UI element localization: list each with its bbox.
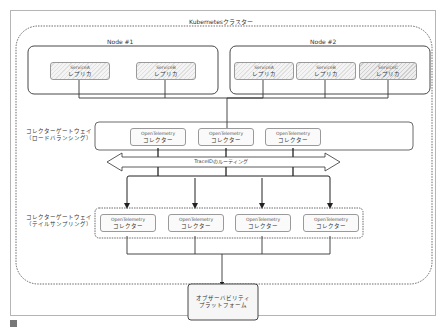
platform-line2: プラットフォーム [199,302,247,309]
service-name: ServiceC [378,64,398,71]
traceid-routing-label: TraceIDのルーティング [0,157,442,164]
service-b-replica-node2: ServiceB レプリカ [296,62,356,80]
collector-name: OpenTelemetry [141,130,175,137]
service-a-replica-node1: ServiceA レプリカ [50,62,110,80]
gateway-lb-label-line2: （ロードバランシング） [18,135,92,142]
gateway-ts-label-line2: （テイルサンプリング） [18,221,92,228]
service-name: ServiceA [70,64,90,71]
service-a-replica-node2: ServiceA レプリカ [234,62,294,80]
service-sub: レプリカ [376,71,400,78]
collector-sub: コレクター [278,137,308,144]
ts-collector-4: OpenTelemetry コレクター [303,214,359,232]
gateway-lb-label: コレクターゲートウェイ （ロードバランシング） [18,128,92,142]
observability-platform: オブザーバビリティ プラットフォーム [189,285,257,319]
ts-collector-3: OpenTelemetry コレクター [235,214,291,232]
service-sub: レプリカ [252,71,276,78]
collector-name: OpenTelemetry [111,216,145,223]
ts-collector-1: OpenTelemetry コレクター [100,214,156,232]
collector-sub: コレクター [248,223,278,230]
service-c-replica-node2: ServiceC レプリカ [359,62,417,80]
service-b-replica-node1: ServiceB レプリカ [136,62,196,80]
gateway-ts-label-line1: コレクターゲートウェイ [18,214,92,221]
collector-name: OpenTelemetry [179,216,213,223]
collector-sub: コレクター [211,137,241,144]
collector-name: OpenTelemetry [314,216,348,223]
collector-sub: コレクター [316,223,346,230]
service-name: ServiceB [156,64,176,71]
lb-collector-1: OpenTelemetry コレクター [130,128,186,146]
gateway-ts-label: コレクターゲートウェイ （テイルサンプリング） [18,214,92,228]
lb-collector-2: OpenTelemetry コレクター [198,128,254,146]
collector-sub: コレクター [113,223,143,230]
figure-marker-icon [10,320,17,327]
collector-sub: コレクター [181,223,211,230]
cluster-title: Kubernetesクラスター [0,17,442,26]
diagram-connectors [0,0,442,333]
service-name: ServiceA [254,64,274,71]
lb-collector-3: OpenTelemetry コレクター [265,128,321,146]
node-1-title: Node #1 [107,38,133,45]
service-sub: レプリカ [68,71,92,78]
service-sub: レプリカ [154,71,178,78]
collector-sub: コレクター [143,137,173,144]
gateway-lb-label-line1: コレクターゲートウェイ [18,128,92,135]
collector-name: OpenTelemetry [276,130,310,137]
service-sub: レプリカ [314,71,338,78]
platform-line1: オブザーバビリティ [196,295,250,302]
collector-name: OpenTelemetry [209,130,243,137]
node-2-title: Node #2 [310,38,336,45]
service-name: ServiceB [316,64,336,71]
ts-collector-2: OpenTelemetry コレクター [168,214,224,232]
collector-name: OpenTelemetry [246,216,280,223]
